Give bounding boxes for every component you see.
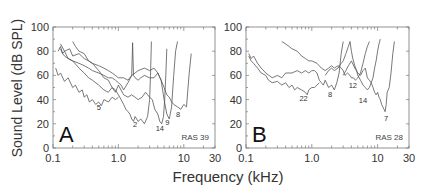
- threshold-curve-9: [58, 42, 177, 120]
- x-tick-label: 30: [209, 152, 221, 164]
- x-tick-label: 10: [178, 152, 190, 164]
- plot-frame: [53, 27, 215, 148]
- threshold-curve-5: [56, 68, 119, 106]
- x-tick-label: 0.1: [45, 152, 60, 164]
- y-tick-label: 80: [37, 45, 49, 57]
- y-tick-label: 100: [224, 21, 242, 33]
- x-tick-label: 10: [371, 152, 383, 164]
- curve-label: 14: [156, 124, 164, 133]
- y-tick-label: 60: [230, 69, 242, 81]
- y-tick-label: 40: [230, 94, 242, 106]
- x-tick-label: 1.0: [111, 152, 126, 164]
- x-tick-label: 1.0: [304, 152, 319, 164]
- threshold-curve-2: [73, 42, 152, 124]
- y-tick-label: 100: [31, 21, 49, 33]
- panel-a: 0204060801000.11.01030521498ARAS 39: [31, 21, 221, 164]
- y-tick-label: 20: [230, 118, 242, 130]
- curve-label: 22: [299, 94, 307, 103]
- curve-label: 12: [349, 81, 357, 90]
- curve-label: 14: [359, 96, 367, 105]
- curve-label: 2: [133, 120, 137, 129]
- threshold-curve-8: [61, 43, 192, 110]
- panel-letter: B: [252, 122, 267, 147]
- curve-label: 9: [165, 118, 169, 127]
- plot-frame: [246, 27, 409, 148]
- x-tick-label: 30: [403, 152, 415, 164]
- y-tick-label: 40: [37, 94, 49, 106]
- curve-label: 7: [384, 114, 388, 123]
- figure: Sound Level (dB SPL) Frequency (kHz) 020…: [0, 0, 429, 193]
- threshold-curve-8: [249, 42, 344, 90]
- curve-label: 8: [176, 110, 180, 119]
- x-tick-label: 0.1: [238, 152, 253, 164]
- x-axis-label: Frequency (kHz): [173, 168, 284, 185]
- y-tick-label: 60: [37, 69, 49, 81]
- y-axis-label: Sound Level (dB SPL): [9, 19, 25, 158]
- panel-letter: A: [59, 122, 74, 147]
- y-tick-label: 80: [230, 45, 242, 57]
- specimen-id-label: RAS 28: [375, 133, 403, 142]
- specimen-id-label: RAS 39: [181, 133, 209, 142]
- curve-label: 8: [328, 90, 332, 99]
- y-tick-label: 20: [37, 118, 49, 130]
- panel-b: 0204060801000.11.0103022812147BRAS 28: [224, 21, 415, 164]
- curve-label: 5: [97, 103, 101, 112]
